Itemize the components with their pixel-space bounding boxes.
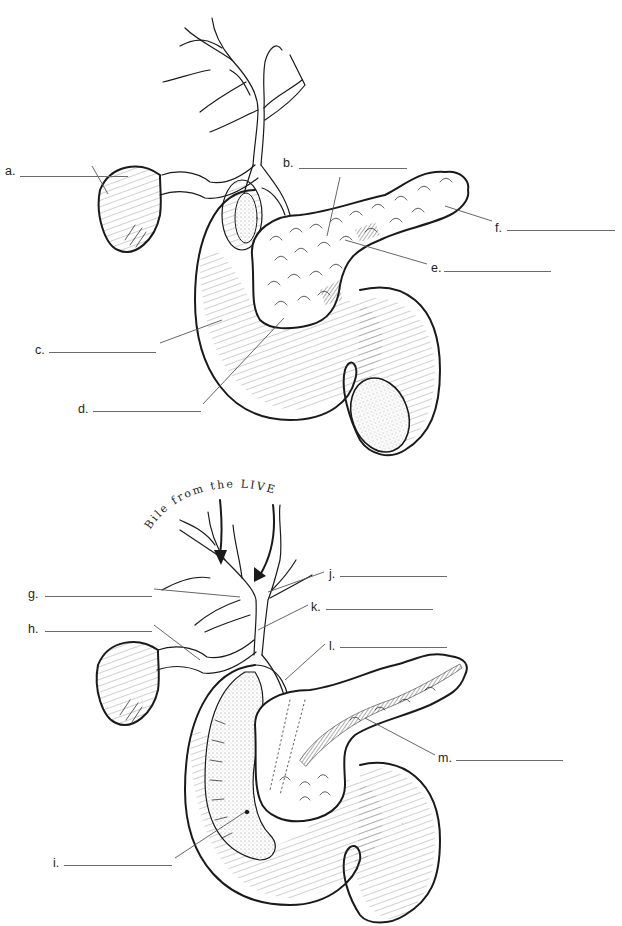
bile-flow-arrows bbox=[214, 500, 274, 582]
answer-blank-h[interactable] bbox=[45, 631, 152, 632]
answer-blank-b[interactable] bbox=[299, 168, 407, 169]
label-k: k. bbox=[311, 600, 321, 614]
label-a: a. bbox=[5, 164, 15, 178]
diagram-2-cutaway-view: Bile from the LIVER bbox=[0, 0, 467, 923]
hepatic-ducts-2 bbox=[162, 505, 312, 655]
label-c: c. bbox=[35, 343, 45, 357]
label-i: i. bbox=[53, 856, 59, 870]
caption-bile-from-liver: Bile from the LIVER bbox=[0, 0, 278, 532]
pancreas-duodenum-illustration: Bile from the LIVER bbox=[0, 0, 622, 926]
answer-blank-l[interactable] bbox=[340, 647, 447, 648]
diagram-1-external-view bbox=[92, 18, 492, 460]
ampulla-opening bbox=[245, 810, 249, 814]
answer-blank-c[interactable] bbox=[49, 352, 156, 353]
label-g: g. bbox=[28, 587, 38, 601]
answer-blank-a[interactable] bbox=[20, 176, 128, 177]
label-m: m. bbox=[438, 751, 452, 765]
label-h: h. bbox=[28, 622, 38, 636]
answer-blank-g[interactable] bbox=[45, 596, 152, 597]
label-l: l. bbox=[329, 639, 335, 653]
answer-blank-e[interactable] bbox=[444, 271, 551, 272]
answer-blank-i[interactable] bbox=[64, 865, 172, 866]
hepatic-ducts bbox=[163, 18, 305, 165]
label-d: d. bbox=[78, 402, 88, 416]
answer-blank-m[interactable] bbox=[456, 760, 563, 761]
label-j: j. bbox=[329, 567, 335, 581]
answer-blank-f[interactable] bbox=[507, 230, 615, 231]
label-e: e. bbox=[431, 261, 441, 275]
answer-blank-j[interactable] bbox=[340, 576, 447, 577]
label-f: f. bbox=[495, 221, 502, 235]
answer-blank-k[interactable] bbox=[326, 609, 433, 610]
answer-blank-d[interactable] bbox=[93, 411, 201, 412]
label-b: b. bbox=[283, 156, 293, 170]
